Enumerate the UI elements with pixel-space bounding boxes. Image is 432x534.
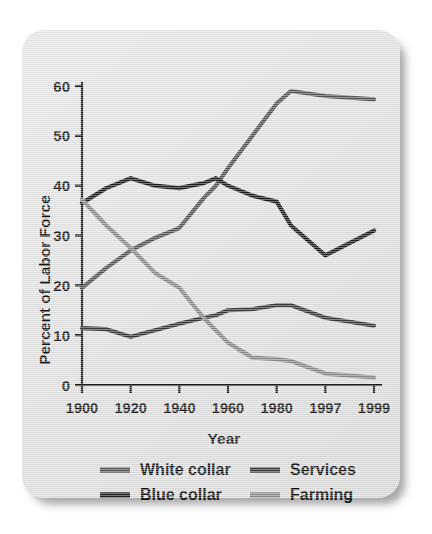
y-tick-label: 30 — [53, 227, 70, 244]
x-tick-label: 1940 — [163, 400, 195, 416]
labor-force-line-chart: 0102030405060 19001920194019601980199719… — [22, 30, 400, 498]
y-tick-label: 0 — [62, 377, 70, 394]
y-tick-label: 20 — [53, 277, 70, 294]
chart-area: 0102030405060 19001920194019601980199719… — [22, 30, 400, 498]
x-tick-label: 1980 — [261, 400, 293, 416]
series-line-white-collar — [82, 91, 374, 288]
chart-card: 0102030405060 19001920194019601980199719… — [22, 30, 400, 498]
y-tick-label: 60 — [53, 78, 70, 95]
y-tick-label: 40 — [53, 177, 70, 194]
x-tick-label: 1960 — [212, 400, 244, 416]
y-tick-label: 10 — [53, 327, 70, 344]
y-axis-tick-labels: 0102030405060 — [53, 78, 70, 394]
y-axis-title: Percent of Labor Force — [36, 195, 53, 365]
series-line-farming — [82, 200, 374, 378]
x-axis-title: Year — [208, 430, 241, 447]
x-tick-label: 1920 — [115, 400, 147, 416]
y-tick-label: 50 — [53, 127, 70, 144]
chart-legend: White collarServicesBlue collarFarming — [100, 461, 356, 503]
x-tick-label: 1999 — [358, 400, 390, 416]
screenshot-root: 0102030405060 19001920194019601980199719… — [0, 0, 432, 534]
x-tick-label: 1997 — [309, 400, 341, 416]
legend-label-services: Services — [290, 461, 356, 478]
legend-label-farming: Farming — [290, 486, 353, 503]
data-series-group — [82, 91, 374, 378]
x-axis-tick-labels: 1900192019401960198019971999 — [66, 400, 390, 416]
x-tick-label: 1900 — [66, 400, 98, 416]
x-axis-ticks — [82, 385, 374, 393]
series-line-services — [82, 305, 374, 336]
legend-label-blue-collar: Blue collar — [140, 486, 222, 503]
legend-label-white-collar: White collar — [140, 461, 231, 478]
